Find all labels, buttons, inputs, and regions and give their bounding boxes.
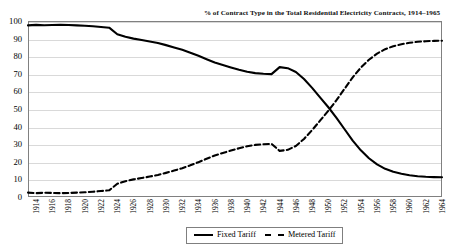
legend-swatch-dashed-icon [265, 234, 284, 236]
x-axis-tick-label: 1950 [324, 199, 333, 214]
y-axis-tick-label: 50 [13, 104, 22, 114]
x-axis-tick-label: 1916 [48, 199, 57, 214]
line-fixed-tariff [28, 25, 442, 177]
chart-container: % of Contract Type in the Total Resident… [0, 0, 452, 252]
x-axis-tick-label: 1934 [194, 199, 203, 214]
chart-legend: Fixed Tariff Metered Tariff [186, 227, 343, 244]
x-axis-tick-label: 1922 [97, 199, 106, 214]
y-axis-tick-label: 20 [13, 157, 22, 167]
y-axis-tick-label: 90 [13, 34, 22, 44]
x-axis-tick-label: 1958 [389, 199, 398, 214]
y-axis-tick-label: 10 [13, 174, 22, 184]
legend-item-fixed-tariff: Fixed Tariff [194, 230, 256, 240]
x-axis-tick-label: 1928 [146, 199, 155, 214]
line-metered-tariff [28, 41, 442, 193]
x-axis-tick-label: 1960 [405, 199, 414, 214]
y-axis-tick-label: 40 [13, 122, 22, 132]
y-axis-tick-label: 30 [13, 139, 22, 149]
x-axis-tick-label: 1920 [81, 199, 90, 214]
y-axis-tick-label: 80 [13, 51, 22, 61]
legend-item-metered-tariff: Metered Tariff [265, 230, 336, 240]
y-axis-tick-label: 60 [13, 86, 22, 96]
x-axis-tick-label: 1932 [178, 199, 187, 214]
x-axis-tick-label: 1952 [340, 199, 349, 214]
y-axis-tick-label: 100 [9, 16, 22, 26]
y-axis-labels: 0102030405060708090100 [0, 21, 26, 197]
x-axis-tick-label: 1944 [276, 199, 285, 214]
x-axis-tick-label: 1924 [113, 199, 122, 214]
x-axis-tick-label: 1936 [211, 199, 220, 214]
x-axis-tick-label: 1926 [129, 199, 138, 214]
x-axis-tick-label: 1914 [32, 199, 41, 214]
x-axis-tick-label: 1940 [243, 199, 252, 214]
y-axis-tick-label: 70 [13, 69, 22, 79]
legend-swatch-solid-icon [194, 234, 213, 236]
x-axis-tick-label: 1954 [357, 199, 366, 214]
y-axis-tick-label: 0 [18, 192, 22, 202]
legend-label-metered-tariff: Metered Tariff [288, 230, 336, 240]
x-axis-tick-label: 1946 [292, 199, 301, 214]
chart-title: % of Contract Type in the Total Resident… [196, 9, 448, 18]
x-axis-tick-label: 1948 [308, 199, 317, 214]
x-axis-tick-label: 1942 [259, 199, 268, 214]
x-axis-tick-label: 1930 [162, 199, 171, 214]
series-lines [28, 21, 442, 197]
x-axis-tick-label: 1938 [227, 199, 236, 214]
x-axis-tick-label: 1956 [373, 199, 382, 214]
x-axis-tick-label: 1962 [422, 199, 431, 214]
x-axis-tick-label: 1918 [64, 199, 73, 214]
x-axis-tick-label: 1964 [438, 199, 447, 214]
legend-label-fixed-tariff: Fixed Tariff [217, 230, 256, 240]
